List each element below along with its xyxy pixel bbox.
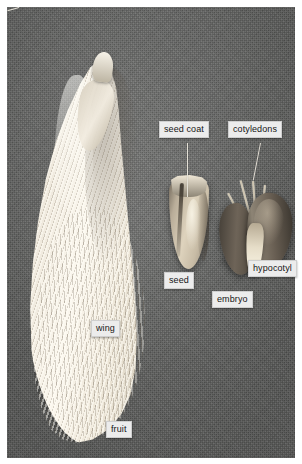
label-fruit: fruit (106, 421, 132, 438)
botanical-figure: seed coat cotyledons seed hypocotyl embr… (0, 0, 302, 464)
label-seed: seed (164, 272, 194, 289)
seed-specimen (169, 177, 209, 269)
seed-highlight (186, 199, 201, 251)
photograph-plate (7, 7, 295, 458)
samara-specimen (25, 60, 155, 445)
label-seed-coat: seed coat (159, 121, 209, 138)
label-cotyledons: cotyledons (228, 121, 282, 138)
leader-line-seed-coat (187, 143, 188, 197)
label-embryo: embryo (212, 291, 253, 308)
label-wing: wing (91, 320, 120, 337)
seed-coat-apex (171, 175, 207, 197)
label-hypocotyl: hypocotyl (248, 260, 297, 277)
